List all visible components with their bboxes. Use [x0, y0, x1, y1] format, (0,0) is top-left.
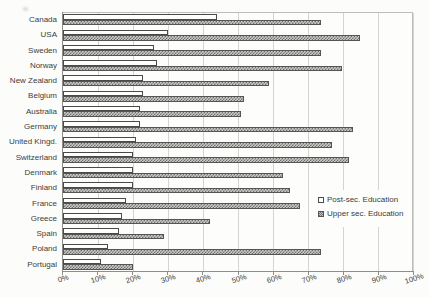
upper-sec-bar — [63, 50, 321, 56]
chart-row — [63, 105, 412, 120]
category-label: Norway — [0, 58, 57, 73]
chart-row — [63, 166, 412, 181]
category-label: Greece — [0, 211, 57, 226]
category-label: Germany — [0, 119, 57, 134]
chart-row — [63, 28, 412, 43]
chart-row — [63, 227, 412, 242]
category-label: Sweden — [0, 43, 57, 58]
category-label: Poland — [0, 241, 57, 256]
upper-sec-bar — [63, 66, 342, 72]
category-label: Canada — [0, 12, 57, 27]
upper-sec-bar — [63, 203, 300, 209]
category-label: Spain — [0, 226, 57, 241]
y-axis-line — [62, 12, 63, 272]
upper-sec-bar — [63, 188, 290, 194]
chart-row — [63, 74, 412, 89]
upper-sec-bar — [63, 35, 360, 41]
category-label: Finland — [0, 180, 57, 195]
bar-chart: CanadaUSASwedenNorwayNew ZealandBelgiumA… — [0, 0, 430, 297]
chart-row — [63, 242, 412, 257]
chart-row — [63, 151, 412, 166]
chart-row — [63, 120, 412, 135]
legend-entry-upper-sec: Upper sec. Education — [318, 209, 404, 218]
category-label: Denmark — [0, 165, 57, 180]
plot-area — [62, 12, 413, 272]
upper-sec-bar — [63, 111, 241, 117]
chart-row — [63, 89, 412, 104]
legend-label: Upper sec. Education — [327, 209, 404, 218]
category-label: New Zealand — [0, 73, 57, 88]
category-label: France — [0, 196, 57, 211]
upper-sec-bar — [63, 96, 244, 102]
chart-row — [63, 13, 412, 28]
category-label: Australia — [0, 104, 57, 119]
upper-sec-swatch-icon — [318, 211, 324, 217]
upper-sec-bar — [63, 249, 321, 255]
category-label: Portugal — [0, 257, 57, 272]
legend-entry-post-sec: Post-sec. Education — [318, 195, 404, 204]
category-label: United Kingd. — [0, 134, 57, 149]
post-sec-swatch-icon — [318, 197, 324, 203]
upper-sec-bar — [63, 234, 164, 240]
upper-sec-bar — [63, 173, 283, 179]
scan-artifact — [23, 7, 28, 11]
upper-sec-bar — [63, 142, 332, 148]
chart-row — [63, 135, 412, 150]
category-label: USA — [0, 27, 57, 42]
gridline — [413, 13, 414, 271]
chart-row — [63, 59, 412, 74]
legend-label: Post-sec. Education — [327, 195, 398, 204]
upper-sec-bar — [63, 157, 349, 163]
upper-sec-bar — [63, 264, 133, 270]
upper-sec-bar — [63, 219, 210, 225]
upper-sec-bar — [63, 127, 353, 133]
category-label: Belgium — [0, 88, 57, 103]
chart-row — [63, 44, 412, 59]
category-label: Switzerland — [0, 150, 57, 165]
legend: Post-sec. Education Upper sec. Education — [315, 190, 409, 227]
upper-sec-bar — [63, 20, 321, 26]
upper-sec-bar — [63, 81, 269, 87]
